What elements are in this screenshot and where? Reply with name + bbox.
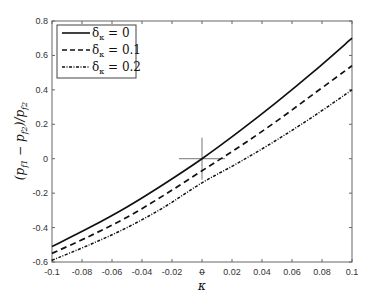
y-tick-label: 0.6 <box>35 50 48 60</box>
y-tick-label: -0.6 <box>32 257 48 267</box>
x-tick-label: -0.1 <box>44 267 60 277</box>
x-tick-label: 0.1 <box>346 267 359 277</box>
x-tick-label: -0.06 <box>102 267 123 277</box>
y-tick-labels: -0.6-0.4-0.200.20.40.60.8 <box>32 16 48 267</box>
x-tick-label: 0.08 <box>313 267 331 277</box>
y-tick-label: -0.4 <box>32 223 48 233</box>
x-axis-label-bar: ‾ <box>199 271 205 285</box>
y-tick-label: -0.2 <box>32 188 48 198</box>
line-chart: -0.1-0.08-0.06-0.04-0.0200.020.040.060.0… <box>0 0 371 305</box>
x-tick-label: -0.08 <box>72 267 93 277</box>
x-tick-label: 0.04 <box>253 267 271 277</box>
y-axis-label: (pf1 − pf2)/pf2 <box>13 102 29 180</box>
x-tick-label: -0.04 <box>132 267 153 277</box>
y-tick-label: 0.4 <box>35 85 48 95</box>
legend-label: δκ = 0 <box>92 26 130 42</box>
x-tick-label: -0.02 <box>162 267 183 277</box>
y-tick-label: 0.2 <box>35 119 48 129</box>
x-tick-label: 0.02 <box>223 267 241 277</box>
y-tick-label: 0 <box>43 154 48 164</box>
x-tick-label: 0.06 <box>283 267 301 277</box>
legend: δκ = 0 δκ = 0.1 δκ = 0.2 <box>57 25 141 78</box>
y-tick-label: 0.8 <box>35 16 48 26</box>
